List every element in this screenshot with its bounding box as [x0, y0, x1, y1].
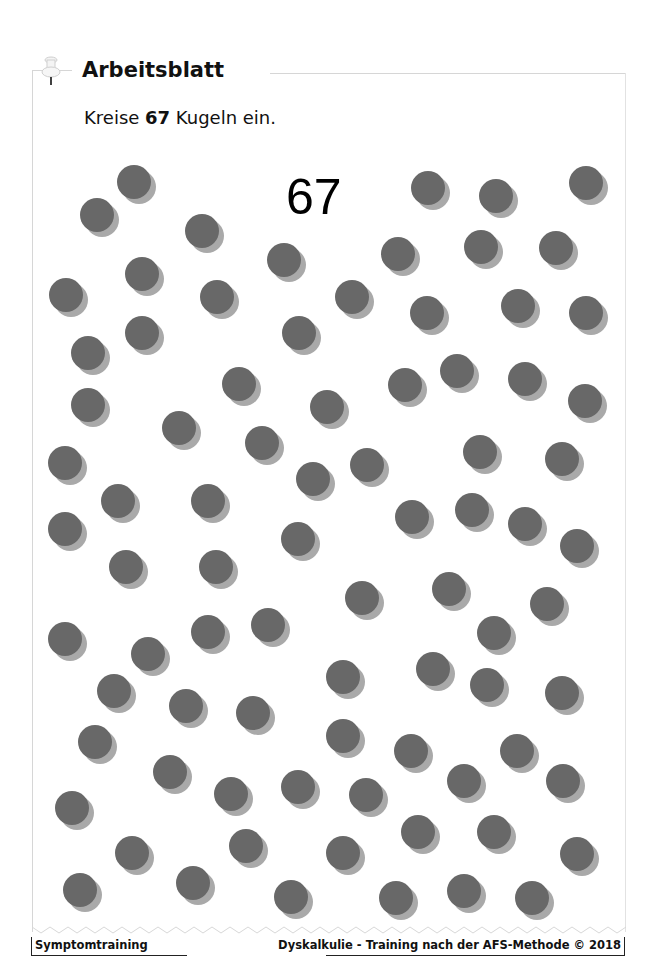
footer-right-text: Dyskalkulie - Training nach der AFS-Meth… — [278, 938, 621, 952]
ball[interactable] — [335, 280, 369, 314]
ball-core — [530, 587, 564, 621]
ball-core — [97, 674, 131, 708]
ball[interactable] — [191, 484, 225, 518]
ball-core — [236, 696, 270, 730]
ball[interactable] — [345, 581, 379, 615]
ball[interactable] — [48, 622, 82, 656]
ball[interactable] — [162, 411, 196, 445]
ball-core — [560, 529, 594, 563]
ball[interactable] — [381, 237, 415, 271]
ball[interactable] — [440, 354, 474, 388]
ball[interactable] — [545, 442, 579, 476]
ball[interactable] — [251, 608, 285, 642]
ball[interactable] — [395, 500, 429, 534]
ball[interactable] — [401, 815, 435, 849]
ball[interactable] — [447, 764, 481, 798]
ball[interactable] — [125, 257, 159, 291]
ball[interactable] — [432, 572, 466, 606]
ball[interactable] — [80, 198, 114, 232]
ball[interactable] — [508, 362, 542, 396]
ball-core — [310, 390, 344, 424]
ball[interactable] — [411, 171, 445, 205]
ball[interactable] — [560, 837, 594, 871]
ball[interactable] — [447, 874, 481, 908]
ball[interactable] — [101, 484, 135, 518]
ball-core — [199, 550, 233, 584]
ball-core — [545, 442, 579, 476]
ball[interactable] — [191, 615, 225, 649]
ball[interactable] — [200, 280, 234, 314]
ball[interactable] — [464, 230, 498, 264]
ball[interactable] — [274, 880, 308, 914]
ball[interactable] — [326, 660, 360, 694]
ball[interactable] — [97, 674, 131, 708]
target-number: 67 — [286, 172, 342, 222]
ball[interactable] — [131, 637, 165, 671]
ball[interactable] — [388, 368, 422, 402]
ball[interactable] — [115, 836, 149, 870]
ball-core — [326, 660, 360, 694]
ball[interactable] — [71, 388, 105, 422]
ball[interactable] — [117, 165, 151, 199]
ball[interactable] — [508, 507, 542, 541]
ball[interactable] — [78, 725, 112, 759]
ball[interactable] — [501, 289, 535, 323]
ball[interactable] — [63, 873, 97, 907]
ball[interactable] — [326, 719, 360, 753]
ball-core — [470, 668, 504, 702]
ball[interactable] — [394, 734, 428, 768]
ball[interactable] — [569, 166, 603, 200]
ball[interactable] — [326, 836, 360, 870]
ball-core — [508, 507, 542, 541]
ball[interactable] — [236, 696, 270, 730]
ball-core — [395, 500, 429, 534]
ball[interactable] — [48, 512, 82, 546]
ball[interactable] — [515, 881, 549, 915]
ball[interactable] — [281, 770, 315, 804]
ball[interactable] — [530, 587, 564, 621]
ball[interactable] — [281, 522, 315, 556]
ball[interactable] — [349, 778, 383, 812]
ball[interactable] — [560, 529, 594, 563]
ball[interactable] — [568, 384, 602, 418]
ball[interactable] — [500, 734, 534, 768]
ball[interactable] — [71, 336, 105, 370]
ball[interactable] — [463, 435, 497, 469]
ball[interactable] — [410, 296, 444, 330]
ball[interactable] — [416, 652, 450, 686]
ball[interactable] — [545, 676, 579, 710]
ball[interactable] — [49, 278, 83, 312]
frame-top-border — [270, 73, 625, 74]
ball[interactable] — [267, 243, 301, 277]
ball[interactable] — [153, 755, 187, 789]
ball[interactable] — [479, 179, 513, 213]
ball[interactable] — [199, 550, 233, 584]
ball[interactable] — [109, 550, 143, 584]
ball[interactable] — [185, 214, 219, 248]
ball[interactable] — [539, 231, 573, 265]
ball[interactable] — [48, 446, 82, 480]
ball[interactable] — [477, 815, 511, 849]
ball-core — [447, 874, 481, 908]
ball[interactable] — [296, 462, 330, 496]
ball[interactable] — [214, 777, 248, 811]
ball[interactable] — [55, 791, 89, 825]
ball[interactable] — [477, 616, 511, 650]
ball[interactable] — [455, 493, 489, 527]
ball-core — [394, 734, 428, 768]
instruction-text: Kreise 67 Kugeln ein. — [84, 107, 276, 128]
ball[interactable] — [310, 390, 344, 424]
ball[interactable] — [169, 689, 203, 723]
ball[interactable] — [470, 668, 504, 702]
ball[interactable] — [176, 866, 210, 900]
ball[interactable] — [282, 316, 316, 350]
ball[interactable] — [245, 426, 279, 460]
ball[interactable] — [350, 448, 384, 482]
ball[interactable] — [379, 881, 413, 915]
ball-core — [500, 734, 534, 768]
ball[interactable] — [569, 296, 603, 330]
ball[interactable] — [546, 764, 580, 798]
ball[interactable] — [229, 829, 263, 863]
ball[interactable] — [125, 316, 159, 350]
ball[interactable] — [222, 367, 256, 401]
